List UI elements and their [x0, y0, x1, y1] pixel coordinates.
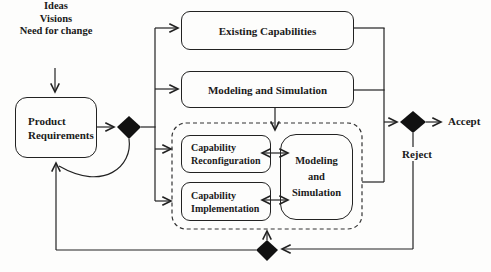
input-label-line-1: Ideas [0, 0, 112, 13]
decision-node-accept-reject [400, 111, 426, 133]
input-label-line-3: Need for change [0, 25, 112, 38]
input-label-line-2: Visions [0, 13, 112, 26]
node-capability-reconfiguration-line-2: Reconfiguration [191, 154, 260, 167]
node-capability-reconfiguration-line-1: Capability [191, 141, 236, 154]
node-capability-implementation-line-2: Implementation [191, 202, 259, 215]
node-modeling-simulation: Modeling and Simulation [181, 71, 354, 108]
accept-label: Accept [448, 115, 480, 127]
node-product-requirements-line-1: Product [28, 114, 66, 128]
node-capability-reconfiguration: Capability Reconfiguration [181, 135, 271, 173]
node-existing-capabilities-label: Existing Capabilities [219, 25, 317, 37]
node-product-requirements-line-2: Requirements [28, 128, 94, 142]
input-label: Ideas Visions Need for change [0, 0, 112, 38]
merge-node-bottom [256, 240, 278, 261]
reject-label: Reject [394, 147, 440, 161]
node-modeling-simulation-inner-line-1: Modeling [295, 153, 338, 169]
node-capability-implementation-line-1: Capability [191, 189, 236, 202]
diagram-canvas: Ideas Visions Need for change Product Re… [0, 0, 491, 272]
node-product-requirements: Product Requirements [15, 97, 97, 158]
node-capability-implementation: Capability Implementation [181, 182, 271, 221]
node-modeling-simulation-inner-line-2: and [308, 169, 325, 185]
node-modeling-simulation-inner-line-3: Simulation [292, 185, 341, 201]
decision-node-main [117, 116, 141, 139]
node-existing-capabilities: Existing Capabilities [181, 11, 354, 50]
node-modeling-simulation-label: Modeling and Simulation [208, 84, 327, 96]
node-modeling-simulation-inner: Modeling and Simulation [280, 134, 353, 220]
